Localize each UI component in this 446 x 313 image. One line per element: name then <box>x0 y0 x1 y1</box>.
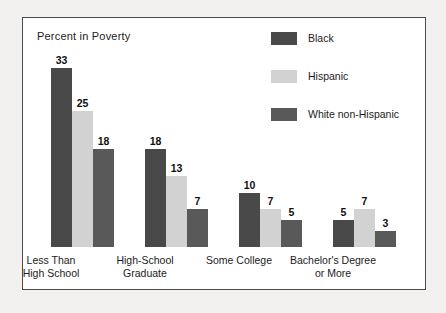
bar: 33 <box>51 57 72 247</box>
bar: 3 <box>375 57 396 247</box>
bar-value-label: 5 <box>281 206 302 218</box>
chart-figure: Percent in Poverty Black Hispanic White … <box>22 17 426 290</box>
bar: 18 <box>145 57 166 247</box>
bar: 18 <box>93 57 114 247</box>
bar-rect <box>166 176 187 247</box>
category-label: Bachelor's Degree or More <box>290 254 376 280</box>
bar-value-label: 25 <box>72 97 93 109</box>
bar-value-label: 7 <box>187 195 208 207</box>
bar: 7 <box>354 57 375 247</box>
bar: 10 <box>239 57 260 247</box>
bar-value-label: 10 <box>239 179 260 191</box>
bar-value-label: 18 <box>93 135 114 147</box>
bar-group-bars: 332518 <box>51 57 114 247</box>
bar-value-label: 5 <box>333 206 354 218</box>
bar-group-bars: 573 <box>333 57 396 247</box>
bar-rect <box>72 111 93 247</box>
bar: 5 <box>281 57 302 247</box>
bar-value-label: 18 <box>145 135 166 147</box>
bar-value-label: 13 <box>166 162 187 174</box>
plot-area: 332518Less Than High School18137High-Sch… <box>23 18 425 289</box>
bar-rect <box>187 209 208 247</box>
category-label: Some College <box>206 254 272 267</box>
bar-group-bars: 1075 <box>239 57 302 247</box>
bar-rect <box>93 149 114 247</box>
bar-rect <box>260 209 281 247</box>
bar: 13 <box>166 57 187 247</box>
bar-value-label: 3 <box>375 217 396 229</box>
bar: 5 <box>333 57 354 247</box>
bar-value-label: 33 <box>51 54 72 66</box>
category-label: High-School Graduate <box>116 254 173 280</box>
bar-value-label: 7 <box>354 195 375 207</box>
bar-value-label: 7 <box>260 195 281 207</box>
bar-group-bars: 18137 <box>145 57 208 247</box>
bar: 25 <box>72 57 93 247</box>
bar-rect <box>281 220 302 247</box>
bar-rect <box>51 68 72 247</box>
bar-rect <box>375 231 396 247</box>
bar: 7 <box>260 57 281 247</box>
bar-rect <box>239 193 260 247</box>
bar-rect <box>333 220 354 247</box>
bar-rect <box>145 149 166 247</box>
bar: 7 <box>187 57 208 247</box>
bar-rect <box>354 209 375 247</box>
category-label: Less Than High School <box>23 254 80 280</box>
